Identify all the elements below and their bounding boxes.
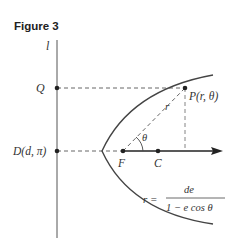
label-d: D(d, π) <box>12 145 46 158</box>
label-p: P(r, θ) <box>188 90 218 103</box>
label-r: r <box>165 100 170 112</box>
equation-lhs: r = <box>143 193 157 205</box>
equation-numerator: de <box>184 184 194 195</box>
point-f <box>121 149 126 154</box>
label-c: C <box>154 157 162 169</box>
radius-line-fp <box>123 88 185 151</box>
directrix-label: l <box>46 39 50 53</box>
point-d <box>55 149 60 154</box>
point-c <box>156 149 161 154</box>
point-q <box>55 86 60 91</box>
label-theta: θ <box>142 132 147 143</box>
point-p <box>183 86 188 91</box>
polar-conic-diagram: l Q P(r, θ) D(d, π) F C r θ r = de 1 − e… <box>0 0 235 250</box>
label-f: F <box>117 157 126 169</box>
equation-denominator: 1 − e cos θ <box>166 202 213 213</box>
label-q: Q <box>36 81 45 95</box>
